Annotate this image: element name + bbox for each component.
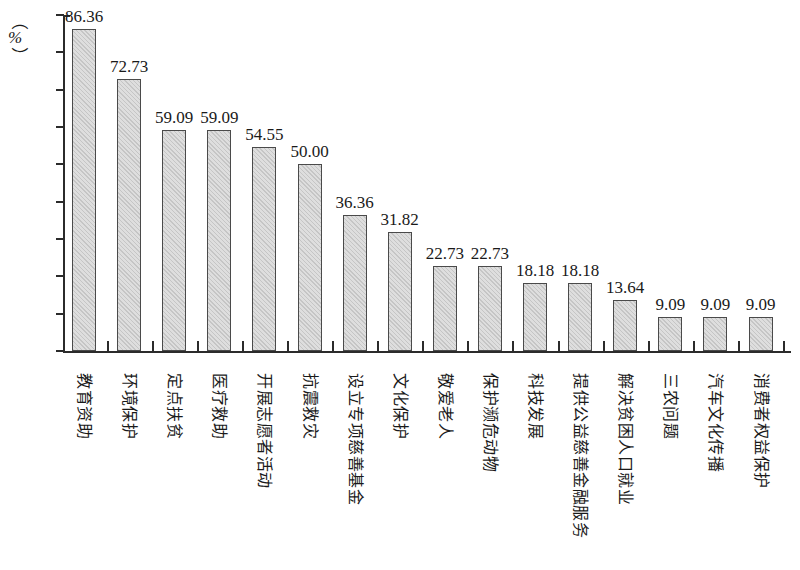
x-axis-category-label: 三农问题	[662, 373, 678, 439]
bar	[207, 130, 231, 351]
x-axis-line	[63, 351, 791, 353]
y-axis-tick	[56, 51, 64, 53]
bar	[252, 147, 276, 351]
bar	[749, 317, 773, 351]
bar	[162, 130, 186, 351]
x-axis-tick	[332, 341, 334, 352]
bar	[703, 317, 727, 351]
bar-value-label: 36.36	[327, 194, 383, 211]
x-axis-category-label: 汽车文化传播	[707, 373, 723, 472]
bar	[388, 232, 412, 351]
x-axis-tick	[603, 341, 605, 352]
x-axis-category-label: 开展志愿者活动	[256, 373, 272, 489]
x-axis-category-label: 解决贫困人口就业	[617, 373, 633, 505]
y-axis-unit-close-paren: ）	[8, 47, 22, 64]
plot-area: 9080706050403020100 86.3672.7359.0959.09…	[63, 15, 791, 352]
y-axis-unit-label: （ % ）	[2, 6, 28, 70]
x-axis-category-label: 保护濒危动物	[482, 373, 498, 472]
bar	[433, 266, 457, 351]
x-axis-tick	[693, 341, 695, 352]
x-axis-tick	[377, 341, 379, 352]
x-axis-tick	[152, 341, 154, 352]
x-axis-tick	[287, 341, 289, 352]
bar-value-label: 59.09	[191, 109, 247, 126]
bar-value-label: 72.73	[101, 58, 157, 75]
y-axis-unit-percent-symbol: %	[8, 28, 22, 48]
x-axis-tick	[107, 341, 109, 352]
x-axis-tick	[648, 341, 650, 352]
bar	[343, 215, 367, 351]
x-axis-tick	[242, 341, 244, 352]
y-axis-tick	[56, 238, 64, 240]
bar	[72, 29, 96, 351]
bar	[568, 283, 592, 351]
y-axis-tick	[56, 126, 64, 128]
x-axis-category-label: 消费者权益保护	[753, 373, 769, 489]
x-axis-tick	[197, 341, 199, 352]
bar-value-label: 31.82	[372, 211, 428, 228]
bar-value-label: 18.18	[552, 262, 608, 279]
y-axis-tick	[56, 275, 64, 277]
bar-value-label: 54.55	[236, 126, 292, 143]
x-axis-tick	[783, 341, 785, 352]
y-axis-line	[63, 15, 65, 352]
x-axis-category-label: 科技发展	[527, 373, 543, 439]
y-axis-tick	[56, 163, 64, 165]
x-axis-category-label: 提供公益慈善金融服务	[572, 373, 588, 538]
y-axis-unit-open-paren: （	[8, 13, 22, 30]
x-axis-category-label: 定点扶贫	[166, 373, 182, 439]
x-axis-category-label: 设立专项慈善基金	[347, 373, 363, 505]
bar	[658, 317, 682, 351]
x-axis-category-label: 医疗救助	[211, 373, 227, 439]
bar-value-label: 86.36	[56, 8, 112, 25]
bar	[613, 300, 637, 351]
x-axis-tick	[558, 341, 560, 352]
y-axis-tick	[56, 313, 64, 315]
bar	[478, 266, 502, 351]
x-axis-category-label: 教育资助	[76, 373, 92, 439]
x-axis-tick	[422, 341, 424, 352]
y-axis-tick	[56, 201, 64, 203]
y-axis-tick	[56, 89, 64, 91]
x-axis-category-label: 文化保护	[392, 373, 408, 439]
bar-value-label: 50.00	[282, 143, 338, 160]
x-axis-category-label: 抗震救灾	[302, 373, 318, 439]
bar-value-label: 22.73	[462, 245, 518, 262]
bar-value-label: 9.09	[733, 296, 789, 313]
x-axis-category-label: 环境保护	[121, 373, 137, 439]
bar	[523, 283, 547, 351]
x-axis-tick	[512, 341, 514, 352]
bar-chart: （ % ） 9080706050403020100 86.3672.7359.0…	[0, 0, 800, 570]
bar	[298, 164, 322, 351]
x-axis-tick	[467, 341, 469, 352]
y-axis-tick	[56, 350, 64, 352]
bar-value-label: 13.64	[597, 279, 653, 296]
x-axis-tick	[738, 341, 740, 352]
bar	[117, 79, 141, 351]
x-axis-category-label: 敬爱老人	[437, 373, 453, 439]
